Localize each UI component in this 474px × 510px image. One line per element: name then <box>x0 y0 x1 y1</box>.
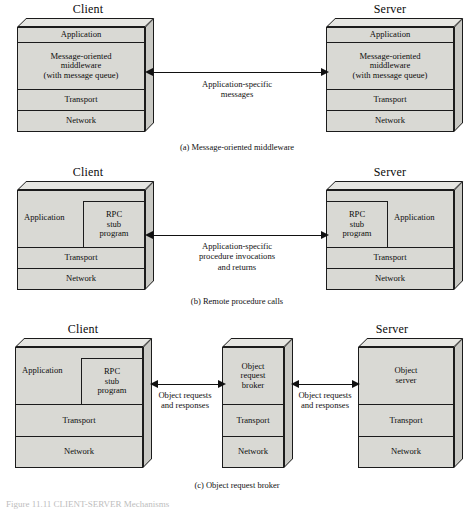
box-top-face <box>15 338 152 347</box>
panel-b-arrow-label-line2: procedure invocations <box>157 251 317 261</box>
layer-transport: Transport <box>358 405 454 437</box>
panel-message-oriented-middleware: Client Server Application Message-orient… <box>0 0 474 155</box>
panel-c-client-application-label: Application <box>22 365 63 375</box>
panel-c-server-label: Server <box>322 322 462 337</box>
panel-c-right-arrow-head-right <box>352 380 360 388</box>
panel-a-arrow-label: Application-specific messages <box>162 79 312 100</box>
box-top-face <box>326 18 463 27</box>
box-top-face <box>222 338 293 347</box>
panel-c-left-arrow-head-left <box>150 380 158 388</box>
panel-a-arrow-line <box>152 72 322 73</box>
panel-c-left-arrow-label-line1: Object requests <box>145 390 225 400</box>
layer-object-server: Object server <box>358 347 454 405</box>
panel-a-arrow-head-right <box>321 68 329 76</box>
layer-middleware: Message-oriented middleware (with messag… <box>17 43 145 90</box>
panel-c-server-stack: Object server Transport Network <box>358 347 454 468</box>
panel-b-client-application-label: Application <box>24 212 65 222</box>
box-side-face <box>454 18 463 132</box>
layer-network: Network <box>17 111 145 132</box>
figure-bottom-caption: Figure 11.11 CLIENT-SERVER Mechanisms <box>6 499 169 509</box>
panel-b-arrow-head-left <box>145 231 153 239</box>
layer-object-request-broker: Object request broker <box>222 347 284 405</box>
panel-c-caption: (c) Object request broker <box>0 480 474 490</box>
panel-c-client-stack: Transport Network Application RPC stub p… <box>15 347 143 468</box>
panel-a-arrow-label-line2: messages <box>162 89 312 99</box>
panel-b-server-rpc-stub-box: RPC stub program <box>326 201 388 248</box>
layer-transport: Transport <box>17 90 145 111</box>
panel-b-client-rpc-stub-box: RPC stub program <box>83 201 145 248</box>
panel-c-right-arrow-label: Object requests and responses <box>285 390 365 411</box>
panel-b-arrow-label-line1: Application-specific <box>157 241 317 251</box>
panel-a-caption: (a) Message-oriented middleware <box>0 142 474 152</box>
layer-network: Network <box>222 437 284 468</box>
panel-b-client-stack: Transport Network Application RPC stub p… <box>17 190 145 290</box>
panel-c-left-arrow-label: Object requests and responses <box>145 390 225 411</box>
panel-c-client-rpc-stub-box: RPC stub program <box>81 358 143 405</box>
box-side-face <box>454 338 463 468</box>
panel-a-server-label: Server <box>320 2 460 17</box>
layer-transport: Transport <box>17 248 145 269</box>
layer-network: Network <box>15 437 143 468</box>
panel-object-request-broker: Client Server Transport Network Applicat… <box>0 322 474 510</box>
panel-remote-procedure-calls: Client Server Transport Network Applicat… <box>0 165 474 310</box>
layer-network: Network <box>326 111 454 132</box>
panel-a-client-stack: Application Message-oriented middleware … <box>17 27 145 132</box>
panel-b-client-label: Client <box>18 165 158 180</box>
panel-c-right-arrow-line <box>298 384 354 385</box>
panel-b-server-label: Server <box>320 165 460 180</box>
layer-transport: Transport <box>326 90 454 111</box>
layer-transport: Transport <box>326 248 454 269</box>
layer-application: Application <box>17 27 145 43</box>
panel-c-right-arrow-label-line1: Object requests <box>285 390 365 400</box>
panel-c-client-label: Client <box>13 322 153 337</box>
box-top-face <box>326 181 463 190</box>
panel-a-arrow-head-left <box>145 68 153 76</box>
layer-middleware: Message-oriented middleware (with messag… <box>326 43 454 90</box>
panel-b-arrow-label: Application-specific procedure invocatio… <box>157 241 317 272</box>
layer-network: Network <box>17 269 145 290</box>
panel-c-right-arrow-head-left <box>291 380 299 388</box>
layer-transport: Transport <box>222 405 284 437</box>
layer-transport: Transport <box>15 405 143 437</box>
box-top-face <box>17 18 154 27</box>
panel-b-caption: (b) Remote procedure calls <box>0 296 474 306</box>
panel-b-server-stack: Transport Network RPC stub program Appli… <box>326 190 454 290</box>
panel-b-arrow-line <box>152 235 322 236</box>
panel-c-right-arrow-label-line2: and responses <box>285 400 365 410</box>
layer-application: Application <box>326 27 454 43</box>
panel-a-arrow-label-line1: Application-specific <box>162 79 312 89</box>
box-side-face <box>454 181 463 290</box>
panel-c-left-arrow-line <box>157 384 219 385</box>
panel-c-left-arrow-label-line2: and responses <box>145 400 225 410</box>
panel-c-left-arrow-head-right <box>218 380 226 388</box>
panel-b-server-application-label: Application <box>394 212 435 222</box>
panel-a-client-label: Client <box>18 2 158 17</box>
panel-c-orb-stack: Object request broker Transport Network <box>222 347 284 468</box>
box-top-face <box>358 338 463 347</box>
panel-b-arrow-label-line3: and returns <box>157 262 317 272</box>
box-top-face <box>17 181 154 190</box>
panel-a-server-stack: Application Message-oriented middleware … <box>326 27 454 132</box>
layer-network: Network <box>326 269 454 290</box>
layer-network: Network <box>358 437 454 468</box>
panel-b-arrow-head-right <box>321 231 329 239</box>
